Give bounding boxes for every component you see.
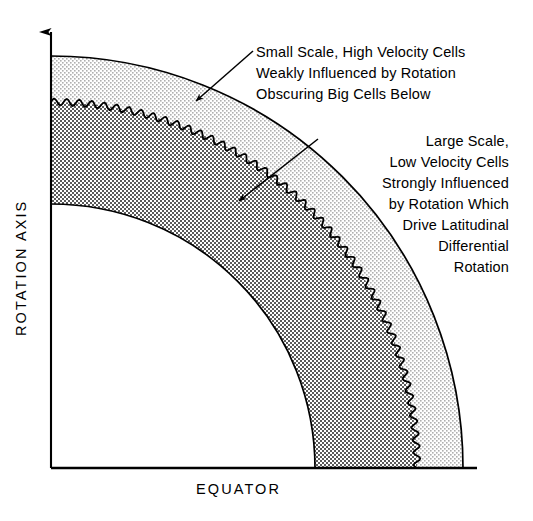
outer-zone-annotation: Small Scale, High Velocity Cells Weakly … [256, 42, 466, 105]
equator-label: EQUATOR [196, 481, 281, 497]
annotation-line: Weakly Influenced by Rotation [256, 63, 466, 84]
annotation-line: Drive Latitudinal [382, 215, 509, 236]
inner-zone-annotation: Large Scale, Low Velocity Cells Strongly… [382, 131, 509, 278]
annotation-line: Strongly Influenced [382, 173, 509, 194]
inner-shell-region [51, 102, 417, 468]
annotation-line: Low Velocity Cells [382, 152, 509, 173]
annotation-line: Differential [382, 236, 509, 257]
annotation-line: Obscuring Big Cells Below [256, 84, 466, 105]
annotation-line: by Rotation Which [382, 194, 509, 215]
annotation-line: Small Scale, High Velocity Cells [256, 42, 466, 63]
annotation-line: Large Scale, [382, 131, 509, 152]
figure-canvas: Small Scale, High Velocity Cells Weakly … [0, 0, 533, 521]
annotation-line: Rotation [382, 257, 509, 278]
rotation-axis-label: ROTATION AXIS [13, 206, 29, 336]
